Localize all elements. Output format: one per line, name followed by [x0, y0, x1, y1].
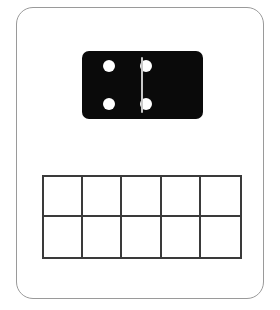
ten-frame-cell[interactable]	[201, 177, 240, 217]
domino-pip-left-top-left	[103, 60, 115, 72]
domino-tile[interactable]	[82, 51, 203, 119]
ten-frame-cell[interactable]	[122, 177, 161, 217]
ten-frame-cell[interactable]	[201, 217, 240, 257]
ten-frame-cell[interactable]	[83, 217, 122, 257]
domino-half-left	[82, 51, 143, 119]
domino-half-right	[143, 51, 204, 119]
worksheet-card	[16, 7, 264, 299]
domino-pip-left-bottom-left	[103, 98, 115, 110]
ten-frame-cell[interactable]	[122, 217, 161, 257]
domino-pip-right-center	[228, 79, 240, 91]
ten-frame-cell[interactable]	[44, 217, 83, 257]
domino-divider-line	[141, 57, 143, 113]
ten-frame-cell[interactable]	[83, 177, 122, 217]
ten-frame-cell[interactable]	[162, 217, 201, 257]
ten-frame-cell[interactable]	[44, 177, 83, 217]
ten-frame-grid	[42, 175, 242, 259]
ten-frame-cell[interactable]	[162, 177, 201, 217]
domino-pip-right-top-right	[246, 60, 258, 72]
domino-pip-right-bottom-left	[209, 98, 221, 110]
